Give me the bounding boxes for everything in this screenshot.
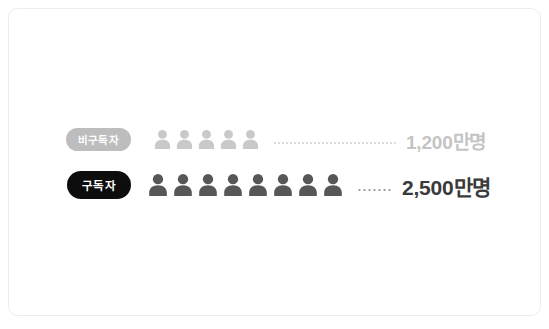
infographic-card: 비구독자 1,200만명 구독자 2,500만명 xyxy=(8,8,541,316)
person-icon xyxy=(172,173,194,197)
person-icon xyxy=(197,173,219,197)
pictogram-group-subscriber xyxy=(147,173,347,197)
dotted-connector-non-subscriber xyxy=(273,142,397,144)
person-icon xyxy=(241,129,260,150)
pictogram-group-non-subscriber xyxy=(153,129,263,150)
person-icon xyxy=(153,129,172,150)
person-icon xyxy=(322,173,344,197)
person-icon xyxy=(197,129,216,150)
stat-row-subscriber: 구독자 2,500만명 xyxy=(57,167,491,203)
person-icon xyxy=(175,129,194,150)
status-badge-subscriber: 구독자 xyxy=(67,171,131,199)
dotted-connector-subscriber xyxy=(357,189,393,191)
person-icon xyxy=(272,173,294,197)
stat-row-non-subscriber: 비구독자 1,200만명 xyxy=(57,123,486,155)
value-label-non-subscriber: 1,200만명 xyxy=(406,127,486,154)
person-icon xyxy=(297,173,319,197)
person-icon xyxy=(222,173,244,197)
person-icon xyxy=(247,173,269,197)
person-icon xyxy=(147,173,169,197)
value-label-subscriber: 2,500만명 xyxy=(402,171,491,201)
person-icon xyxy=(219,129,238,150)
status-badge-non-subscriber: 비구독자 xyxy=(66,128,131,151)
